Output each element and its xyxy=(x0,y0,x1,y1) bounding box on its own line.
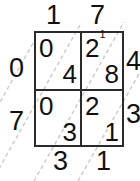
cell-ones-digit: 8 xyxy=(105,61,119,87)
lattice-multiplication-figure: 1 7 0 7 4 3 3 1 0 4 21 8 0 3 2 1 xyxy=(0,0,140,181)
lattice-grid: 0 4 21 8 0 3 2 1 xyxy=(34,31,124,147)
cell-tens-digit: 2 xyxy=(85,93,99,119)
left-result-digit-0: 0 xyxy=(9,55,24,82)
lattice-cell-top-left: 0 4 xyxy=(36,33,80,89)
left-result-digit-1: 7 xyxy=(9,108,24,135)
carry-mark: 1 xyxy=(99,28,105,40)
cell-tens-digit: 0 xyxy=(39,93,53,119)
cell-tens-digit: 21 xyxy=(85,35,106,61)
cell-ones-digit: 3 xyxy=(63,119,77,145)
lattice-cell-bottom-right: 2 1 xyxy=(82,91,122,147)
top-factor-digit-1: 7 xyxy=(90,2,105,29)
bottom-result-digit-0: 3 xyxy=(53,148,68,175)
cell-tens-value: 2 xyxy=(85,33,99,63)
right-factor-digit-1: 3 xyxy=(126,101,140,128)
cell-ones-digit: 1 xyxy=(105,119,119,145)
lattice-cell-bottom-left: 0 3 xyxy=(36,91,80,147)
bottom-result-digit-1: 1 xyxy=(96,148,111,175)
right-factor-digit-0: 4 xyxy=(126,48,140,75)
lattice-cell-top-right: 21 8 xyxy=(82,33,122,89)
cell-ones-digit: 4 xyxy=(63,61,77,87)
top-factor-digit-0: 1 xyxy=(46,2,61,29)
cell-tens-digit: 0 xyxy=(39,35,53,61)
